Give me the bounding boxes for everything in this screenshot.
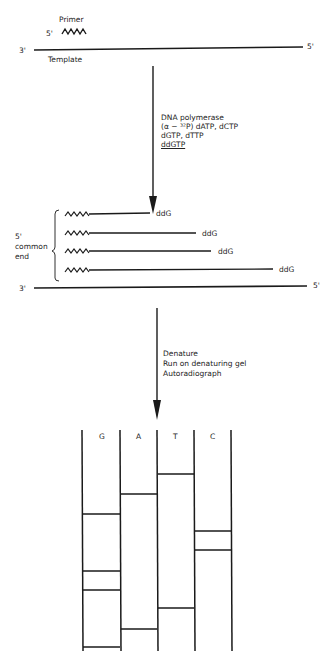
fragment-1-terminator: ddG <box>156 209 171 218</box>
reaction-line-ddgtp: ddGTP <box>161 140 238 149</box>
fragment-1 <box>65 212 150 216</box>
template-3prime-label: 3' <box>19 46 26 55</box>
fragment-2-terminator: ddG <box>202 229 217 238</box>
lane-label-c: C <box>210 432 215 441</box>
reaction-line: (α − ³²P) dATP, dCTP <box>161 122 238 131</box>
fragment-4-terminator: ddG <box>279 265 294 274</box>
template-strand-bottom <box>34 286 307 288</box>
gel <box>82 430 232 651</box>
fragment-2 <box>65 231 196 235</box>
primer-zigzag-icon <box>62 29 86 34</box>
fragment-3-terminator: ddG <box>218 247 233 256</box>
diagram-graphics <box>0 0 335 668</box>
processing-steps: Denature Run on denaturing gel Autoradio… <box>163 349 246 379</box>
reaction-line: dGTP, dTTP <box>161 131 238 140</box>
template-5prime-label: 5' <box>307 42 314 51</box>
bracket-icon <box>52 210 59 281</box>
fragment-4 <box>65 268 273 272</box>
template-label: Template <box>48 55 82 64</box>
common-end-label: 5' common end <box>15 232 48 262</box>
template2-5prime-label: 5' <box>313 281 320 290</box>
lane-label-t: T <box>173 432 178 441</box>
fragment-3 <box>65 249 211 253</box>
reaction-conditions: DNA polymerase (α − ³²P) dATP, dCTP dGTP… <box>161 113 238 149</box>
lane-label-g: G <box>99 432 105 441</box>
template2-3prime-label: 3' <box>19 284 26 293</box>
lane-label-a: A <box>136 432 141 441</box>
arrow-down-icon <box>153 400 161 420</box>
reaction-line: DNA polymerase <box>161 113 238 122</box>
template-strand-top <box>34 47 303 50</box>
